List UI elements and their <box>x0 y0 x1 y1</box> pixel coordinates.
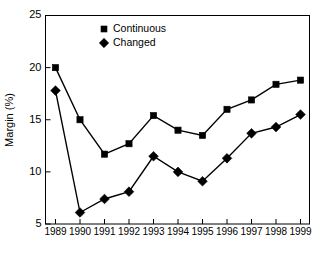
data-point-square-marker <box>126 141 132 147</box>
data-point-square-marker <box>175 127 181 133</box>
chart-figure: 510152025 198919901991199219931994199519… <box>0 0 324 256</box>
y-axis-tick-label: 20 <box>29 61 41 73</box>
x-axis-tick-label: 1991 <box>93 226 116 237</box>
legend-label: Changed <box>113 36 156 48</box>
margin-line-chart: 510152025 198919901991199219931994199519… <box>0 0 324 256</box>
y-axis-tick-label: 15 <box>29 113 41 125</box>
x-axis-tick-label: 1989 <box>44 226 67 237</box>
data-point-square-marker <box>248 97 254 103</box>
y-axis-tick-label: 5 <box>35 217 41 229</box>
data-point-square-marker <box>297 77 303 83</box>
x-axis-tick-label: 1992 <box>118 226 141 237</box>
data-point-square-marker <box>224 106 230 112</box>
x-axis-tick-label: 1997 <box>240 226 263 237</box>
x-axis-tick-label: 1996 <box>216 226 239 237</box>
x-axis-tick-label: 1999 <box>289 226 312 237</box>
data-point-square-marker <box>273 81 279 87</box>
y-axis-title: Margin (%) <box>3 93 15 147</box>
data-point-square-marker <box>101 151 107 157</box>
data-point-square-marker <box>199 132 205 138</box>
data-point-square-marker <box>52 65 58 71</box>
x-axis-tick-label: 1993 <box>142 226 165 237</box>
legend-label: Continuous <box>113 22 166 34</box>
data-point-square-marker <box>150 112 156 118</box>
x-axis-tick-label: 1994 <box>167 226 190 237</box>
y-axis-tick-label: 10 <box>29 165 41 177</box>
data-point-square-marker <box>77 117 83 123</box>
x-axis-tick-label: 1995 <box>191 226 214 237</box>
legend-marker-square <box>101 26 107 32</box>
x-axis-tick-label: 1998 <box>265 226 288 237</box>
x-axis-tick-label: 1990 <box>69 226 92 237</box>
y-axis-tick-label: 25 <box>29 8 41 20</box>
